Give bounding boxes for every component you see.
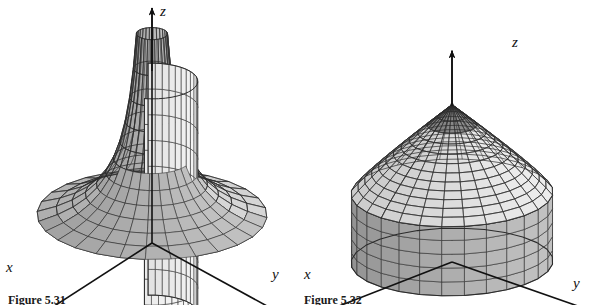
figure-left-funnel: x y z: [0, 0, 296, 305]
cylinder-facet: [194, 151, 196, 179]
dome-facet: [445, 173, 460, 182]
cylinder-facet: [420, 225, 442, 240]
figure-page: x y z x y z Figure 5.31 Figure 5.32: [0, 0, 592, 305]
z-axis-label: z: [159, 3, 166, 19]
cylinder-facet: [190, 97, 193, 125]
x-axis-label: x: [303, 266, 311, 282]
cylinder-facet: [169, 64, 175, 91]
cylinder-facet: [169, 142, 175, 169]
cylinder-facet: [148, 269, 155, 295]
cylinder-facet: [194, 125, 196, 153]
y-axis-label: y: [270, 266, 279, 282]
cylinder-facet: [464, 224, 486, 240]
cylinder-facet: [181, 119, 186, 147]
dome-facet: [442, 217, 465, 227]
figure-right-dome: x y z: [296, 0, 592, 305]
dome-facet: [426, 190, 444, 200]
funnel-near-facet: [145, 246, 171, 259]
cylinder-facet: [190, 149, 193, 177]
y-axis-label: y: [571, 275, 580, 291]
cylinder-facet: [175, 143, 181, 170]
dome-cylinder-svg: x y z: [296, 0, 592, 305]
dome-facet: [442, 208, 463, 217]
cylinder-facet: [194, 254, 196, 282]
cylinder-facet: [420, 239, 442, 254]
cylinder-facet: [181, 274, 186, 302]
cylinder-facet: [186, 95, 190, 123]
funnel-near-facet: [136, 190, 149, 206]
cylinder-facet: [190, 123, 193, 151]
cylinder-facet: [169, 116, 175, 143]
figure-right-caption: Figure 5.32: [304, 293, 362, 305]
dome-facet: [445, 182, 461, 191]
z-axis-label: z: [511, 34, 518, 50]
dome-facet: [422, 207, 443, 217]
cylinder-facet: [162, 64, 169, 91]
cylinder-facet: [175, 272, 181, 299]
funnel-near-facet: [149, 190, 161, 205]
cylinder-facet: [442, 282, 465, 296]
funnel-near-facet: [148, 206, 163, 220]
cylinder-facet: [464, 252, 486, 268]
cylinder-facet: [162, 89, 169, 116]
cylinder-facet: [155, 89, 162, 115]
cylinder-facet: [186, 275, 190, 303]
funnel-near-facet: [147, 220, 165, 234]
cylinder-facet: [175, 117, 181, 144]
dome-facet: [446, 164, 459, 173]
cylinder-facet: [181, 93, 186, 121]
cylinder-facet: [464, 280, 486, 296]
cylinder-facet: [442, 254, 465, 268]
funnel-surface-svg: x y z: [0, 0, 296, 305]
dome-facet: [428, 181, 445, 191]
cylinder-facet: [155, 141, 162, 167]
funnel-near-facet: [149, 173, 159, 190]
cylinder-facet: [155, 63, 162, 89]
cylinder-facet: [420, 253, 442, 268]
dome-facet: [424, 199, 444, 209]
cylinder-facet: [194, 280, 196, 305]
cylinder-facet: [155, 269, 162, 295]
cylinder-facet: [175, 66, 181, 93]
cylinder-facet: [420, 267, 442, 282]
cylinder-facet: [420, 281, 442, 296]
x-axis-label: x: [5, 259, 13, 275]
cylinder-facet: [186, 121, 190, 149]
cylinder-facet: [162, 270, 169, 297]
cylinder-facet: [442, 268, 465, 282]
cylinder-facet: [155, 115, 162, 141]
dome-facet: [420, 216, 443, 227]
cylinder-facet: [194, 100, 196, 128]
cylinder-facet: [190, 71, 193, 99]
conical-dome-cap: [351, 103, 552, 227]
cylinder-facet: [169, 271, 175, 298]
dome-facet: [443, 199, 463, 208]
cylinder-facet: [162, 115, 169, 142]
funnel-near-facet: [139, 173, 150, 191]
dome-facet: [444, 191, 462, 200]
cylinder-facet: [169, 90, 175, 117]
cylinder-facet: [162, 141, 169, 168]
figure-left-caption: Figure 5.31: [8, 293, 66, 305]
cylinder-facet: [181, 67, 186, 95]
cylinder-facet: [190, 278, 193, 305]
cylinder-facet: [442, 240, 465, 254]
cylinder-facet: [464, 238, 486, 254]
